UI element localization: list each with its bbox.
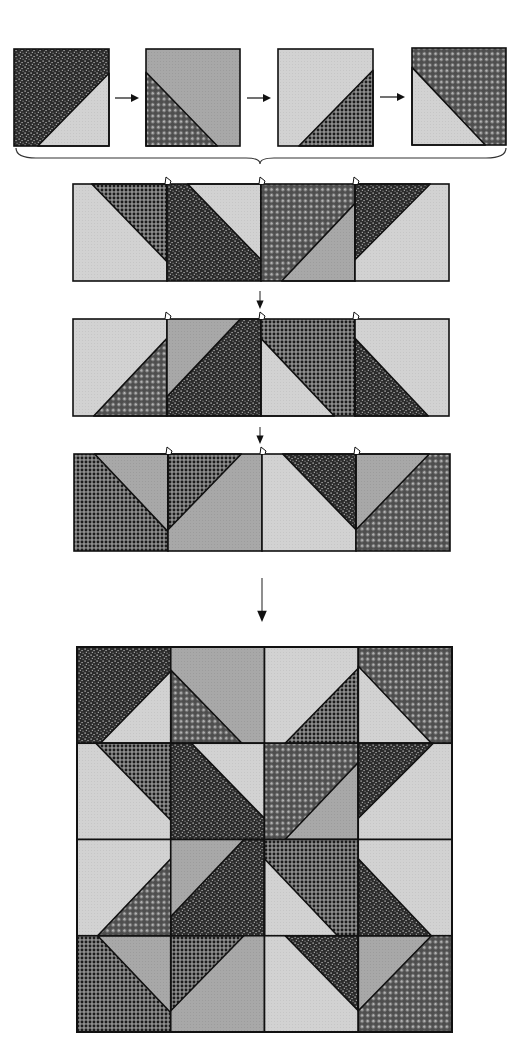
- seam-allowance-tab: [354, 447, 360, 454]
- assembly-strips: [73, 177, 450, 551]
- curly-brace-icon: [16, 148, 506, 164]
- top-unit-3: [278, 49, 373, 146]
- strip-unit-3: [261, 184, 355, 281]
- strip-row-2: [73, 312, 449, 416]
- final-unit-r2c1: [77, 743, 171, 839]
- final-unit-r4c4: [358, 936, 452, 1032]
- top-unit-4: [412, 48, 506, 145]
- final-unit-r1c1: [77, 647, 171, 743]
- final-unit-r3c3: [265, 840, 359, 936]
- seam-allowance-tab: [259, 312, 265, 319]
- strip-unit-3: [261, 319, 355, 416]
- strip-row-1: [73, 177, 449, 281]
- final-unit-r1c4: [358, 647, 452, 743]
- final-row-1: [77, 647, 452, 743]
- final-unit-r2c4: [358, 743, 452, 839]
- final-unit-r1c3: [265, 647, 359, 743]
- grouping-brace: [16, 148, 506, 164]
- seam-allowance-tab: [353, 312, 359, 319]
- down-arrow-icon-3: [257, 578, 267, 622]
- final-unit-r3c1: [77, 840, 171, 936]
- seam-allowance-tab: [165, 177, 171, 184]
- strip-unit-4: [355, 184, 449, 281]
- final-unit-r3c4: [358, 840, 452, 936]
- final-block: [77, 647, 452, 1032]
- final-unit-r4c3: [265, 936, 359, 1032]
- final-row-3: [77, 840, 452, 936]
- final-unit-r2c3: [265, 743, 359, 839]
- top-units-row: [14, 48, 506, 146]
- top-unit-1: [14, 49, 109, 146]
- right-arrow-icon-2: [247, 94, 271, 102]
- strip-unit-4: [355, 319, 449, 416]
- final-unit-r4c2: [171, 936, 265, 1032]
- strip-unit-1: [73, 319, 167, 416]
- down-arrow-icon-1: [256, 291, 263, 309]
- seam-allowance-tab: [259, 177, 265, 184]
- strip-unit-1: [74, 454, 168, 551]
- final-row-2: [77, 743, 452, 839]
- final-unit-r3c2: [171, 840, 265, 936]
- seam-allowance-tab: [166, 447, 172, 454]
- strip-unit-3: [262, 454, 356, 551]
- seam-allowance-tab: [165, 312, 171, 319]
- top-unit-2: [146, 49, 240, 146]
- final-unit-r4c1: [77, 936, 171, 1032]
- strip-unit-2: [168, 454, 262, 551]
- strip-row-3: [74, 447, 450, 551]
- down-arrow-icon-2: [256, 427, 263, 444]
- quilt-assembly-diagram: [0, 0, 510, 1050]
- final-row-4: [77, 936, 452, 1032]
- strip-unit-1: [73, 184, 167, 281]
- strip-unit-2: [167, 319, 261, 416]
- final-unit-r1c2: [171, 647, 265, 743]
- diagram-canvas: [0, 0, 510, 1050]
- strip-unit-4: [356, 454, 450, 551]
- strip-unit-2: [167, 184, 261, 281]
- seam-allowance-tab: [353, 177, 359, 184]
- right-arrow-icon-1: [115, 94, 139, 102]
- final-unit-r2c2: [171, 743, 265, 839]
- seam-allowance-tab: [260, 447, 266, 454]
- right-arrow-icon-3: [380, 93, 405, 101]
